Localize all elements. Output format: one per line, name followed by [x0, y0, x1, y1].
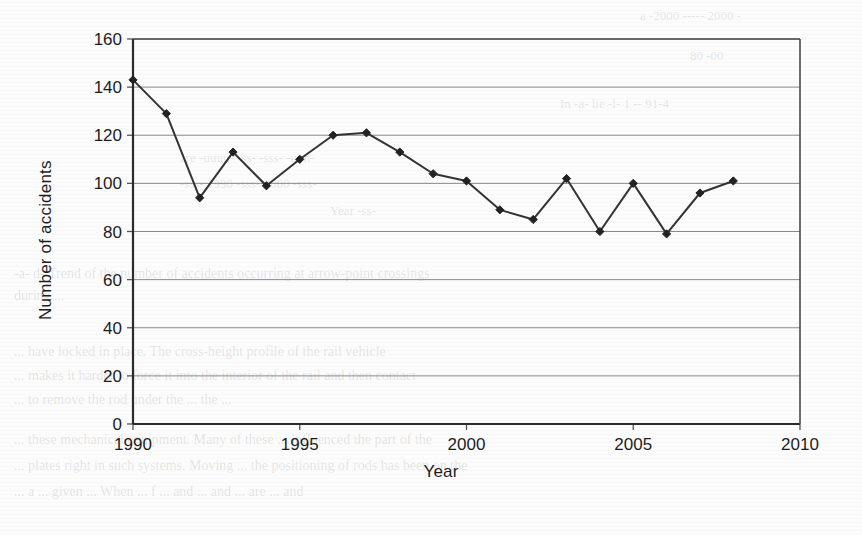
y-tick-label: 140: [94, 78, 122, 97]
y-tick-label: 0: [113, 415, 122, 434]
line-chart-figure: 020406080100120140160 199019952000200520…: [0, 0, 862, 535]
x-tick-label: 2005: [614, 435, 652, 454]
y-tick-label: 60: [103, 271, 122, 290]
x-tick-label: 1990: [114, 435, 152, 454]
y-tick-label: 100: [94, 174, 122, 193]
chart-canvas: 020406080100120140160 199019952000200520…: [0, 0, 862, 535]
x-tick-labels-group: 19901995200020052010: [114, 435, 819, 454]
y-tick-label: 120: [94, 126, 122, 145]
gridlines-group: [133, 39, 800, 376]
x-tick-label: 2010: [781, 435, 819, 454]
x-tick-label: 2000: [448, 435, 486, 454]
y-tick-label: 160: [94, 30, 122, 49]
x-axis-title: Year: [0, 462, 862, 482]
x-axis-title-text: Year: [423, 462, 458, 481]
y-tick-label: 80: [103, 223, 122, 242]
y-tick-label: 20: [103, 367, 122, 386]
data-line: [133, 80, 733, 234]
y-axis-title: Number of accidents: [36, 160, 56, 320]
data-markers-group: [129, 76, 738, 238]
y-tick-labels-group: 020406080100120140160: [94, 30, 122, 434]
x-tick-label: 1995: [281, 435, 319, 454]
data-line-group: [133, 80, 733, 234]
y-tick-label: 40: [103, 319, 122, 338]
